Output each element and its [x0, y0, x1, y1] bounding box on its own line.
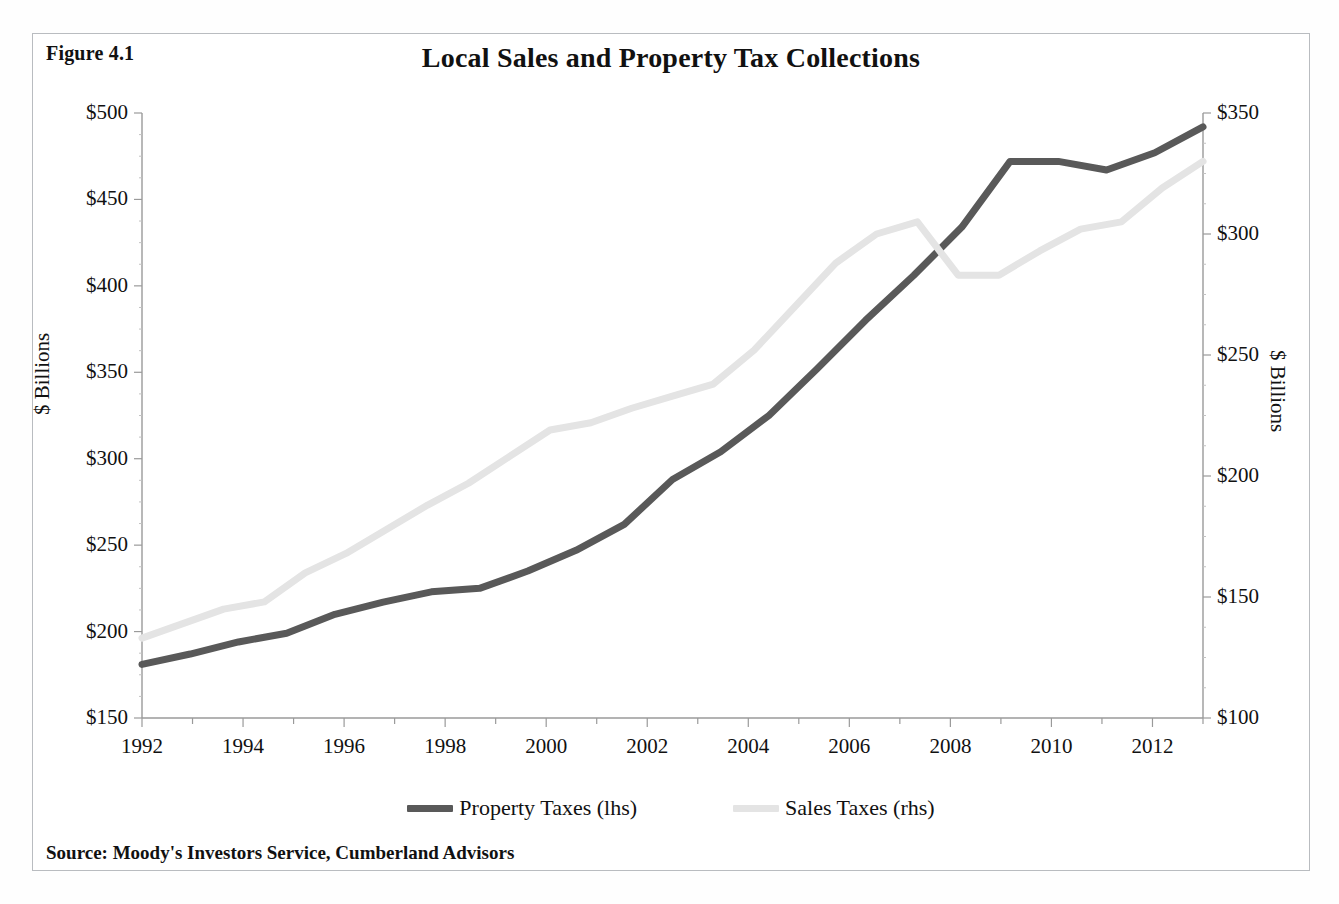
left-tick-label: $500 [48, 100, 128, 125]
legend-swatch-icon [407, 805, 453, 812]
right-tick-label: $350 [1217, 100, 1297, 125]
left-tick-label: $250 [48, 532, 128, 557]
legend-swatch-icon [733, 805, 779, 812]
left-tick-label: $400 [48, 273, 128, 298]
right-tick-label: $100 [1217, 705, 1297, 730]
left-tick-label: $150 [48, 705, 128, 730]
left-tick-label: $200 [48, 619, 128, 644]
left-tick-label: $350 [48, 359, 128, 384]
left-tick-label: $450 [48, 186, 128, 211]
legend-label: Property Taxes (lhs) [459, 795, 637, 821]
right-tick-label: $150 [1217, 584, 1297, 609]
x-tick-label: 1996 [304, 734, 384, 759]
legend-entry-property-taxes: Property Taxes (lhs) [407, 795, 637, 821]
right-tick-label: $200 [1217, 463, 1297, 488]
x-tick-label: 2006 [809, 734, 889, 759]
x-tick-label: 1998 [405, 734, 485, 759]
left-tick-label: $300 [48, 446, 128, 471]
right-tick-label: $250 [1217, 342, 1297, 367]
x-tick-label: 2008 [910, 734, 990, 759]
x-tick-label: 2000 [506, 734, 586, 759]
source-note: Source: Moody's Investors Service, Cumbe… [46, 842, 514, 864]
x-tick-label: 1994 [203, 734, 283, 759]
chart-legend: Property Taxes (lhs)Sales Taxes (rhs) [32, 795, 1310, 821]
x-tick-label: 2012 [1112, 734, 1192, 759]
x-tick-label: 2010 [1011, 734, 1091, 759]
chart-title: Local Sales and Property Tax Collections [32, 42, 1310, 74]
figure-page: Figure 4.1 Local Sales and Property Tax … [0, 0, 1339, 904]
legend-entry-sales-taxes: Sales Taxes (rhs) [733, 795, 935, 821]
x-tick-label: 2004 [708, 734, 788, 759]
legend-label: Sales Taxes (rhs) [785, 795, 935, 821]
x-tick-label: 1992 [102, 734, 182, 759]
right-tick-label: $300 [1217, 221, 1297, 246]
x-tick-label: 2002 [607, 734, 687, 759]
